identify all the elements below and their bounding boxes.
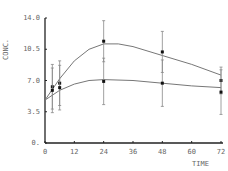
x-tick-label: 12 — [70, 148, 78, 156]
fit-curve — [45, 44, 221, 100]
chart: 01224364860720.3.57.010.514.0 CONC. TIME — [0, 0, 228, 171]
plot-area — [45, 21, 223, 115]
data-point — [58, 86, 61, 89]
x-tick-label: 72 — [217, 148, 225, 156]
fit-curve — [45, 80, 221, 101]
data-point — [161, 50, 164, 53]
y-tick-label: 14.0 — [23, 14, 40, 22]
x-tick-label: 60 — [187, 148, 195, 156]
x-tick-label: 24 — [99, 148, 107, 156]
y-tick-label: 0. — [32, 139, 40, 147]
x-tick-label: 48 — [158, 148, 166, 156]
data-point — [102, 80, 105, 83]
y-axis-label: CONC. — [2, 39, 10, 60]
data-point — [161, 82, 164, 85]
y-tick-label: 10.5 — [23, 45, 40, 53]
data-point — [220, 91, 223, 94]
x-tick-label: 0 — [43, 148, 47, 156]
data-point — [102, 40, 105, 43]
x-axis-label: TIME — [192, 160, 209, 168]
x-tick-label: 36 — [129, 148, 137, 156]
y-tick-label: 3.5 — [27, 108, 40, 116]
data-point — [51, 89, 54, 92]
axes: 01224364860720.3.57.010.514.0 — [23, 14, 225, 156]
y-tick-label: 7.0 — [27, 77, 40, 85]
